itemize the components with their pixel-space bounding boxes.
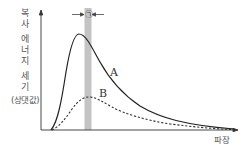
band-label: ㉠ <box>83 9 94 20</box>
y-label-char: 복 <box>8 8 42 19</box>
y-axis-label: 복 사 에 너 지 세 기 (상댓값) <box>8 8 42 106</box>
y-label-char: 지 <box>8 56 42 67</box>
wavelength-band <box>85 8 92 130</box>
y-label-char: 너 <box>8 45 42 56</box>
y-label-char: 에 <box>8 34 42 45</box>
curve-a <box>51 34 234 130</box>
y-label-char: 사 <box>8 19 42 30</box>
y-label-char: 기 <box>8 82 42 93</box>
curve-a-label: A <box>110 66 118 79</box>
curve-b <box>52 97 234 130</box>
y-label-unit: (상댓값) <box>8 95 42 106</box>
curve-b-label: B <box>99 87 107 100</box>
x-axis <box>41 128 238 131</box>
y-label-char: 세 <box>8 71 42 82</box>
x-axis-label: 파장 <box>214 133 230 145</box>
